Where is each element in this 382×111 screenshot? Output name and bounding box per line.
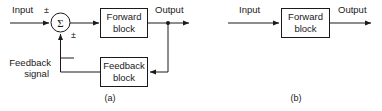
panel-a-feedback-sign: ± <box>71 30 76 40</box>
block-diagram-svg: Input ± Σ ± Forward block Feedback block… <box>0 0 382 111</box>
panel-a-caption: (a) <box>105 93 116 103</box>
panel-a-feedback-signal-label-line2: signal <box>24 68 49 79</box>
panel-a-sigma-symbol: Σ <box>57 17 63 29</box>
panel-a-output-label: Output <box>155 4 184 15</box>
panel-a-feedback-block-label-line2: block <box>113 72 135 83</box>
panel-b-caption: (b) <box>291 93 302 103</box>
panel-a-forward-block-label-line2: block <box>113 23 135 34</box>
panel-b-output-label: Output <box>338 4 367 15</box>
panel-a-input-sign: ± <box>44 5 49 15</box>
panel-a-feedback-block-label-line1: Feedback <box>103 60 145 71</box>
panel-a-input-label: Input <box>12 4 33 15</box>
figure-canvas: Input ± Σ ± Forward block Feedback block… <box>0 0 382 111</box>
panel-b-forward-block-label-line1: Forward <box>288 11 323 22</box>
panel-a-forward-block-label-line1: Forward <box>107 11 142 22</box>
panel-a-feedback-signal-label-line1: Feedback <box>9 57 51 68</box>
panel-b-input-label: Input <box>239 4 260 15</box>
panel-b-forward-block-label-line2: block <box>294 23 316 34</box>
